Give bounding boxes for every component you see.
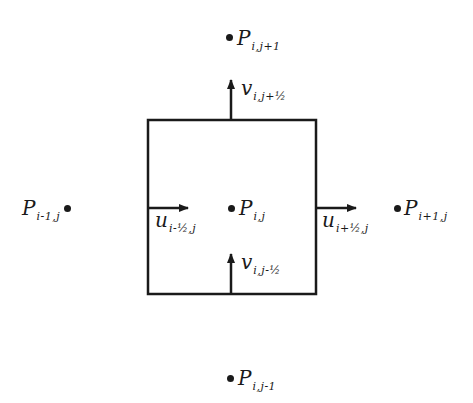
label-p-center: Pi,j: [239, 198, 265, 218]
label-u-west: ui-½,j: [155, 210, 196, 230]
node-dot-north: [226, 34, 233, 41]
label-v-south: vi,j-½: [241, 252, 281, 272]
staggered-grid-diagram: Pi,j+1 Pi,j Pi,j-1 Pi-1,j Pi+1,j vi,j+½ …: [0, 0, 473, 403]
label-v-north: vi,j+½: [241, 78, 286, 98]
label-p-north: Pi,j+1: [237, 28, 281, 48]
diagram-lines: [0, 0, 473, 403]
node-dot-east: [394, 205, 401, 212]
node-dot-south: [227, 375, 234, 382]
label-p-west: Pi-1,j: [22, 198, 60, 218]
node-dot-center: [228, 205, 235, 212]
node-dot-west: [64, 205, 71, 212]
label-p-south: Pi,j-1: [238, 368, 276, 388]
label-u-east: ui+½,j: [322, 210, 369, 230]
label-p-east: Pi+1,j: [404, 198, 448, 218]
